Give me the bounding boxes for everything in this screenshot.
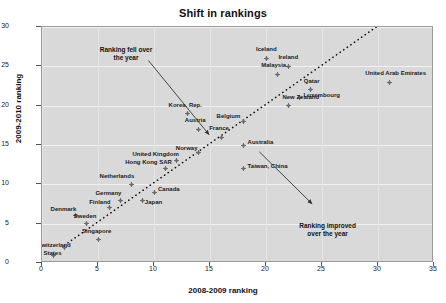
data-point-label: Norway [176, 145, 198, 152]
data-point-marker [276, 73, 279, 76]
annotation-line-2: the year [86, 54, 166, 62]
annotation-line-1: Ranking improved [288, 222, 368, 230]
data-point-marker [242, 120, 245, 123]
x-tick-mark [97, 262, 98, 266]
x-tick-label: 5 [82, 265, 112, 272]
data-point-label: Japan [145, 199, 162, 206]
page-title: Shift in rankings [0, 7, 446, 19]
x-tick-mark [265, 262, 266, 266]
y-tick-label: 15 [0, 140, 9, 147]
data-point-label: France [209, 125, 229, 132]
x-tick-mark [209, 262, 210, 266]
data-point [275, 72, 280, 77]
data-point [241, 166, 246, 171]
data-point-label: Canada [158, 186, 180, 193]
x-tick-mark [433, 262, 434, 266]
data-point-label: Singapore [82, 228, 111, 235]
data-point-marker [153, 191, 156, 194]
data-point-marker [130, 183, 133, 186]
data-point-label: Australia [248, 139, 274, 146]
data-point-marker [164, 167, 167, 170]
plot-area: United StatesSwitzerlandSingaporeSwedenD… [41, 26, 433, 262]
x-tick-mark [153, 262, 154, 266]
data-point [286, 103, 291, 108]
data-point-label: Iceland [256, 46, 277, 53]
x-tick-mark [321, 262, 322, 266]
data-point [219, 135, 224, 140]
data-point-label: Germany [95, 190, 121, 197]
y-tick-label: 0 [0, 258, 9, 265]
x-tick-label: 35 [418, 265, 446, 272]
data-point [163, 166, 168, 171]
annotation-line-2: over the year [288, 230, 368, 238]
data-point-label: Korea, Rep. [169, 102, 202, 109]
data-point-marker [197, 151, 200, 154]
data-point-label: Hong Kong SAR [125, 159, 172, 166]
scatter-chart: Shift in rankings 2009-2010 ranking 2008… [0, 0, 446, 303]
data-point-marker [220, 136, 223, 139]
data-point-label: United Kingdom [132, 151, 178, 158]
data-point-marker [265, 57, 268, 60]
data-point-marker [119, 199, 122, 202]
data-point-label: Finland [89, 199, 110, 206]
x-axis-title: 2008-2009 ranking [0, 286, 446, 295]
data-point-marker [85, 222, 88, 225]
data-point-label: United Arab Emirates [365, 70, 426, 77]
data-point-label: Ireland [278, 54, 298, 61]
data-point-marker [388, 81, 391, 84]
data-point-marker [108, 206, 111, 209]
data-point-marker [97, 238, 100, 241]
data-point-label: Malaysia [261, 62, 286, 69]
data-point-marker [242, 144, 245, 147]
data-point-label: Qatar [304, 78, 320, 85]
data-point [84, 221, 89, 226]
data-point-label: Taiwan, China [248, 163, 288, 170]
x-tick-mark [41, 262, 42, 266]
data-point-label: Sweden [74, 213, 97, 220]
data-point-label: Switzerland [41, 242, 71, 249]
data-point-label: Netherlands [100, 173, 135, 180]
x-tick-label: 0 [26, 265, 56, 272]
y-tick-label: 5 [0, 219, 9, 226]
y-tick-label: 10 [0, 179, 9, 186]
data-point-marker [287, 65, 290, 68]
y-tick-label: 20 [0, 101, 9, 108]
x-tick-label: 30 [362, 265, 392, 272]
data-point [241, 143, 246, 148]
data-point [174, 158, 179, 163]
data-point [286, 64, 291, 69]
x-tick-label: 10 [138, 265, 168, 272]
data-point [129, 182, 134, 187]
data-point [96, 237, 101, 242]
data-point [118, 198, 123, 203]
data-point-marker [175, 159, 178, 162]
data-point [196, 127, 201, 132]
data-point-label: Denmark [51, 206, 77, 213]
data-point [107, 205, 112, 210]
data-point-label: Belgium [217, 113, 241, 120]
annotation-fell: Ranking fell overthe year [86, 46, 166, 62]
data-point [152, 190, 157, 195]
data-point-marker [287, 104, 290, 107]
annotation-improved: Ranking improvedover the year [288, 222, 368, 238]
data-point [264, 56, 269, 61]
data-point-marker [186, 112, 189, 115]
data-point-marker [242, 167, 245, 170]
y-tick-label: 25 [0, 61, 9, 68]
y-axis-title: 2009-2010 ranking [14, 39, 23, 179]
data-point-label: United States [41, 250, 62, 257]
data-point [185, 111, 190, 116]
x-tick-mark [377, 262, 378, 266]
x-tick-label: 25 [306, 265, 336, 272]
annotation-line-1: Ranking fell over [86, 46, 166, 54]
data-point [241, 119, 246, 124]
data-point [387, 80, 392, 85]
y-tick-label: 30 [0, 22, 9, 29]
data-point-label: Luxembourg [304, 92, 340, 99]
x-tick-label: 20 [250, 265, 280, 272]
reference-line-45deg [42, 27, 432, 261]
x-tick-label: 15 [194, 265, 224, 272]
data-point-label: Austria [185, 117, 206, 124]
data-point-marker [197, 128, 200, 131]
